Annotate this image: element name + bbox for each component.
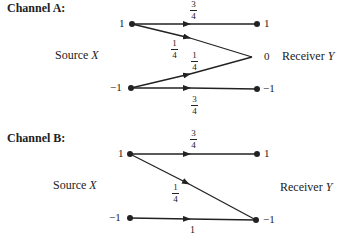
channel-a-receiver-label: Receiver Y [282, 49, 334, 64]
node-b-source-1 [127, 151, 133, 157]
a-prob-1-to-0: 14 [171, 39, 178, 60]
node-b-receiver-1 [254, 151, 260, 157]
channel-a-source-label: Source X [55, 48, 99, 63]
channel-b-edges [130, 154, 257, 220]
b-prob-1-to-neg1: 14 [172, 183, 179, 204]
channel-b-receiver-label: Receiver Y [280, 180, 332, 195]
a-receiver-node-1-label: 1 [264, 17, 270, 29]
a-prob-neg1-to-neg1: 34 [191, 95, 198, 116]
node-a-source-1 [129, 21, 135, 27]
b-source-node-1-label: 1 [118, 147, 124, 159]
channel-diagram-graphics [0, 0, 339, 242]
b-prob-neg1-to-neg1: 1 [190, 224, 195, 235]
a-source-node-1-label: 1 [119, 17, 125, 29]
a-prob-1-to-1: 34 [190, 0, 197, 21]
a-receiver-node-neg1-label: −1 [263, 82, 275, 94]
node-b-source-neg1 [127, 215, 133, 221]
b-source-node-neg1-label: −1 [109, 211, 121, 223]
node-b-receiver-neg1 [253, 217, 259, 223]
a-source-node-neg1-label: −1 [110, 81, 122, 93]
b-receiver-node-neg1-label: −1 [263, 213, 275, 225]
channel-b-source-label: Source X [53, 178, 97, 193]
node-a-source-neg1 [128, 85, 134, 91]
node-a-receiver-1 [254, 21, 260, 27]
channel-b-title: Channel B: [7, 131, 65, 146]
a-receiver-node-0-label: 0 [264, 50, 270, 62]
b-prob-1-to-1: 34 [190, 129, 197, 150]
channel-a-title: Channel A: [7, 1, 65, 16]
a-prob-neg1-to-0: 14 [191, 51, 198, 72]
b-receiver-node-1-label: 1 [264, 147, 270, 159]
node-a-receiver-neg1 [254, 86, 260, 92]
